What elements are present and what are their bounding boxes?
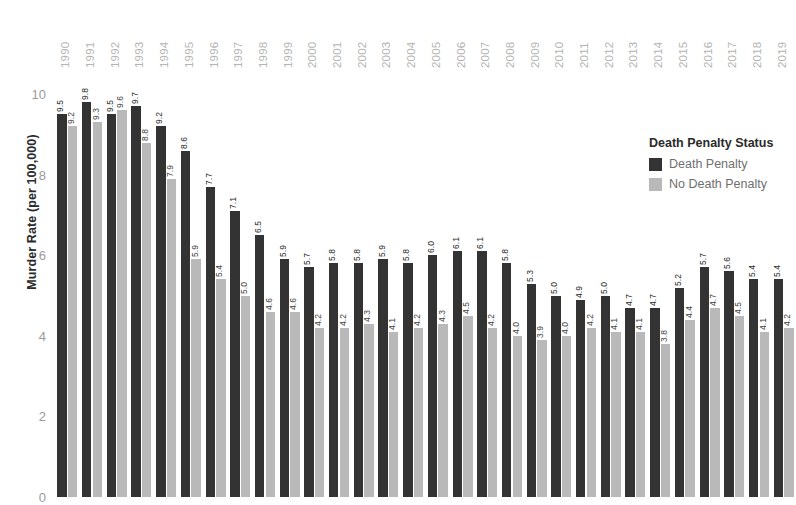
bar-value-label: 4.2 (782, 314, 792, 326)
x-axis-tick-label: 2019 (776, 42, 788, 68)
bar[interactable] (784, 328, 793, 497)
bar[interactable] (774, 279, 783, 497)
legend-item-death-penalty[interactable]: Death Penalty (649, 157, 794, 171)
bar[interactable] (156, 126, 165, 497)
bar[interactable] (107, 114, 116, 497)
y-axis-tick-label: 10 (2, 87, 46, 102)
bar-group: 6.04.3 (426, 70, 451, 497)
bar[interactable] (502, 263, 511, 497)
bar-value-label: 9.7 (130, 92, 140, 104)
bar[interactable] (142, 143, 151, 497)
bar[interactable] (636, 332, 645, 497)
bar-group: 5.24.4 (673, 70, 698, 497)
bar[interactable] (625, 308, 634, 497)
bar-value-label: 5.9 (377, 245, 387, 257)
bar[interactable] (513, 336, 522, 497)
bar[interactable] (428, 255, 437, 497)
bar[interactable] (661, 344, 670, 497)
bar[interactable] (290, 312, 299, 497)
bar-group: 5.74.7 (697, 70, 722, 497)
bar[interactable] (576, 300, 585, 497)
x-axis-tick-label: 2012 (603, 42, 615, 68)
bar-value-label: 5.7 (302, 253, 312, 265)
x-axis-tick-label: 2014 (652, 42, 664, 68)
bar-value-label: 5.0 (549, 281, 559, 293)
y-axis-tick-label: 2 (2, 409, 46, 424)
x-axis-tick-label: 1999 (282, 42, 294, 68)
x-axis-tick-label: 2008 (504, 42, 516, 68)
bar[interactable] (354, 263, 363, 497)
bar-value-label: 4.1 (387, 318, 397, 330)
bar[interactable] (735, 316, 744, 497)
bar-value-label: 9.3 (91, 108, 101, 120)
bar[interactable] (191, 259, 200, 497)
bar[interactable] (611, 332, 620, 497)
bar[interactable] (414, 328, 423, 497)
bar-value-label: 9.5 (105, 100, 115, 112)
x-axis-tick-label: 2003 (380, 42, 392, 68)
bar[interactable] (167, 179, 176, 497)
bar[interactable] (304, 267, 313, 497)
bar[interactable] (57, 114, 66, 497)
bar[interactable] (340, 328, 349, 497)
bar[interactable] (675, 288, 684, 497)
bar[interactable] (315, 328, 324, 497)
bar[interactable] (477, 251, 486, 497)
bar[interactable] (438, 324, 447, 497)
bar[interactable] (537, 340, 546, 497)
y-axis-tick-label: 4 (2, 328, 46, 343)
bar[interactable] (527, 284, 536, 498)
bar[interactable] (266, 312, 275, 497)
bar[interactable] (587, 328, 596, 497)
bar[interactable] (453, 251, 462, 497)
bar-group: 5.44.2 (771, 70, 796, 497)
bar[interactable] (68, 126, 77, 497)
bar[interactable] (760, 332, 769, 497)
bar-value-label: 5.4 (214, 265, 224, 277)
bar-value-label: 5.6 (722, 257, 732, 269)
x-axis-tick-label: 1997 (232, 42, 244, 68)
bar-value-label: 5.0 (599, 281, 609, 293)
bar[interactable] (749, 279, 758, 497)
bar[interactable] (131, 106, 140, 497)
bar-value-label: 9.6 (115, 96, 125, 108)
bar[interactable] (710, 308, 719, 497)
bar[interactable] (403, 263, 412, 497)
bar-value-label: 5.9 (278, 245, 288, 257)
bar-value-label: 5.4 (772, 265, 782, 277)
bar[interactable] (280, 259, 289, 497)
bar-value-label: 5.3 (525, 269, 535, 281)
bar-value-label: 8.6 (179, 136, 189, 148)
x-axis-tick-label: 1991 (84, 42, 96, 68)
bar[interactable] (93, 122, 102, 497)
bar-group: 5.64.5 (722, 70, 747, 497)
bar[interactable] (117, 110, 126, 497)
x-axis-year-labels: 1990199119921993199419951996199719981999… (55, 0, 796, 70)
bar[interactable] (255, 235, 264, 497)
bar[interactable] (562, 336, 571, 497)
bar[interactable] (206, 187, 215, 497)
bar[interactable] (685, 320, 694, 497)
bar-value-label: 6.0 (426, 241, 436, 253)
bar-group: 9.59.2 (55, 70, 80, 497)
bar[interactable] (181, 151, 190, 497)
bar[interactable] (378, 259, 387, 497)
legend-item-no-death-penalty[interactable]: No Death Penalty (649, 177, 794, 191)
bar-value-label: 8.8 (140, 128, 150, 140)
bar[interactable] (241, 296, 250, 497)
bar[interactable] (230, 211, 239, 497)
bar[interactable] (216, 279, 225, 497)
legend-swatch-icon (649, 158, 662, 171)
x-axis-tick-label: 2009 (529, 42, 541, 68)
bar[interactable] (364, 324, 373, 497)
x-axis-tick-label: 2000 (306, 42, 318, 68)
bar[interactable] (389, 332, 398, 497)
bar[interactable] (463, 316, 472, 497)
bar-value-label: 5.8 (352, 249, 362, 261)
x-axis-tick-label: 2010 (553, 42, 565, 68)
bar[interactable] (82, 102, 91, 497)
bar[interactable] (329, 263, 338, 497)
bar[interactable] (488, 328, 497, 497)
bar-group: 5.33.9 (524, 70, 549, 497)
bar-group: 5.84.2 (401, 70, 426, 497)
